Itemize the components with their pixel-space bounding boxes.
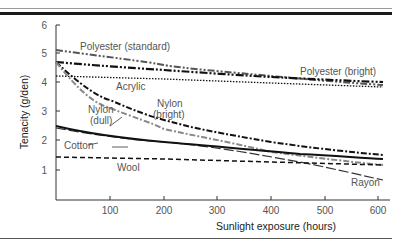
line-wool	[56, 157, 383, 165]
line-acrylic	[56, 76, 383, 87]
y-ticks: 6 5 4 3 2 1	[41, 20, 60, 176]
label-acrylic: Acrylic	[116, 81, 145, 92]
label-polyester-bright: Polyester (bright)	[300, 66, 376, 77]
chart: 6 5 4 3 2 1 100 200 300 400 500 600 Sunl…	[0, 0, 407, 245]
y-tick-label: 6	[41, 20, 47, 31]
y-tick-label: 4	[41, 77, 47, 88]
x-tick-label: 500	[317, 205, 334, 216]
y-tick-label: 5	[41, 48, 47, 59]
label-polyester-standard: Polyester (standard)	[80, 41, 170, 52]
x-tick-label: 200	[156, 205, 173, 216]
label-wool: Wool	[117, 162, 140, 173]
x-tick-label: 400	[263, 205, 280, 216]
x-ticks: 100 200 300 400 500 600	[102, 196, 387, 216]
x-tick-label: 100	[102, 205, 119, 216]
x-axis-title: Sunlight exposure (hours)	[216, 220, 336, 232]
x-tick-label: 300	[209, 205, 226, 216]
y-tick-label: 3	[41, 106, 47, 117]
label-rayon: Rayon	[351, 177, 380, 188]
y-axis-title: Tenacity (g/den)	[18, 75, 30, 150]
y-tick-label: 1	[41, 165, 47, 176]
label-nylon-dull-line2: (dull)	[90, 115, 112, 126]
label-nylon-dull-line1: Nylon	[88, 104, 114, 115]
label-cotton: Cotton	[64, 140, 93, 151]
line-cotton	[56, 126, 383, 159]
label-nylon-bright-line1: Nylon	[157, 98, 183, 109]
y-tick-label: 2	[41, 135, 47, 146]
x-tick-label: 600	[370, 205, 387, 216]
label-nylon-bright-line2: (bright)	[153, 109, 185, 120]
